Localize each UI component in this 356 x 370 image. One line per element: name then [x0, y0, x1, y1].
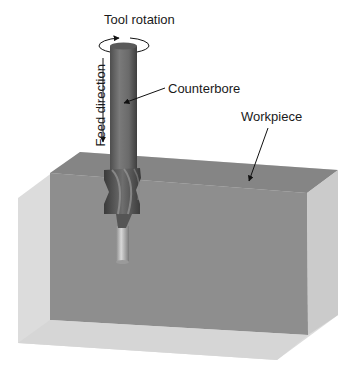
tool-rotation-label: Tool rotation — [104, 13, 175, 26]
workpiece-right-face — [307, 170, 338, 335]
workpiece-back-face — [50, 173, 308, 335]
tool-cutter — [104, 168, 141, 214]
counterbore-label: Counterbore — [168, 82, 240, 95]
shank-top — [110, 43, 137, 50]
tool-pilot — [116, 226, 129, 262]
workpiece-label: Workpiece — [241, 110, 302, 123]
workpiece — [18, 152, 338, 360]
rotation-arc-left — [99, 46, 110, 52]
counterbore-diagram — [0, 0, 356, 370]
tool-shank — [110, 46, 137, 170]
pilot-bottom — [116, 260, 129, 264]
feed-direction-label: Feed direction — [94, 67, 107, 147]
